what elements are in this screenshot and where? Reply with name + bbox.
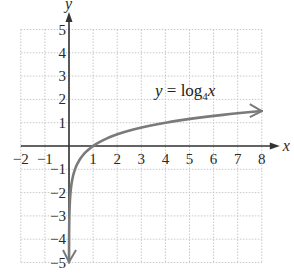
x-tick-label: 3 xyxy=(138,151,146,167)
y-tick-label: −3 xyxy=(50,208,66,224)
y-tick-label: 5 xyxy=(59,22,67,38)
x-tick-label: 4 xyxy=(162,151,170,167)
y-axis-arrow-icon xyxy=(66,12,73,22)
y-tick-label: −1 xyxy=(50,161,66,177)
y-tick-label: 4 xyxy=(59,45,67,61)
y-axis-label: y xyxy=(63,0,73,13)
x-tick-label: −2 xyxy=(13,151,29,167)
log-graph: xy −2−11234567854321−1−2−3−4−5 y = log4x xyxy=(0,0,294,280)
x-tick-label: 1 xyxy=(89,151,97,167)
x-tick-label: 7 xyxy=(234,151,242,167)
y-tick-label: −4 xyxy=(50,231,66,247)
y-tick-label: 1 xyxy=(59,115,67,131)
y-tick-label: 2 xyxy=(59,91,67,107)
x-tick-label: 8 xyxy=(258,151,266,167)
x-tick-label: 6 xyxy=(210,151,218,167)
x-tick-label: 5 xyxy=(186,151,194,167)
equation-label: y = log4x xyxy=(153,81,216,102)
x-axis-label: x xyxy=(282,137,290,154)
x-tick-label: 2 xyxy=(113,151,121,167)
y-tick-label: −5 xyxy=(50,255,66,271)
y-tick-label: 3 xyxy=(59,68,67,84)
x-axis-arrow-icon xyxy=(270,143,280,150)
y-tick-label: −2 xyxy=(50,185,66,201)
